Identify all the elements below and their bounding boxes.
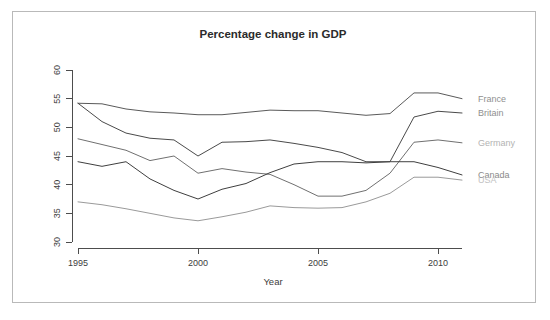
y-tick-label: 45 — [52, 151, 62, 161]
y-tick-label: 40 — [52, 180, 62, 190]
series-line-germany — [78, 139, 462, 196]
legend-label-germany: Germany — [478, 138, 516, 148]
y-tick-label: 50 — [52, 122, 62, 132]
series-line-usa — [78, 177, 462, 221]
figure-root: Percentage change in GDP 30354045505560 … — [0, 0, 550, 320]
series-line-canada — [78, 162, 462, 199]
series-line-britain — [78, 103, 462, 161]
legend-label-france: France — [478, 94, 506, 104]
x-axis-title: Year — [263, 276, 282, 287]
y-tick-label: 55 — [52, 94, 62, 104]
x-tick-label: 1995 — [68, 258, 88, 268]
y-tick-label: 60 — [52, 65, 62, 75]
x-tick-label: 2010 — [428, 258, 448, 268]
series-lines — [78, 93, 462, 221]
series-legend: FranceBritainGermanyCanadaUSA — [478, 94, 516, 185]
series-line-france — [78, 93, 462, 115]
gdp-line-chart: Percentage change in GDP 30354045505560 … — [0, 0, 550, 320]
x-tick-label: 2000 — [188, 258, 208, 268]
legend-label-britain: Britain — [478, 108, 504, 118]
legend-label-usa: USA — [478, 175, 497, 185]
y-tick-label: 30 — [52, 237, 62, 247]
y-axis-ticks: 30354045505560 — [52, 65, 72, 247]
chart-title: Percentage change in GDP — [200, 28, 347, 40]
x-axis-ticks: 1995200020052010 — [68, 248, 448, 268]
x-tick-label: 2005 — [308, 258, 328, 268]
y-tick-label: 35 — [52, 208, 62, 218]
